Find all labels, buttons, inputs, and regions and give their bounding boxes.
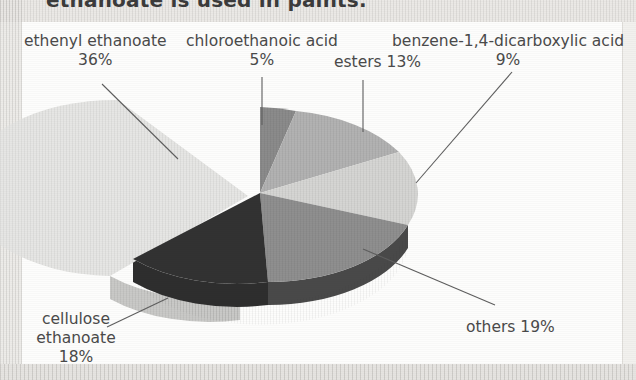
scan-texture-bottom <box>0 364 636 380</box>
label-chloroethanoic-acid: chloroethanoic acid 5% <box>186 32 338 70</box>
label-benzene-1-4-dicarboxylic-acid: benzene-1,4-dicarboxylic acid 9% <box>392 32 624 70</box>
screenshot-root: ethanoate is used in paints. <box>0 0 636 380</box>
label-others: others 19% <box>466 318 555 337</box>
label-chloroethanoic-acid-pct: 5% <box>186 51 338 70</box>
label-chloroethanoic-acid-name: chloroethanoic acid <box>186 32 338 50</box>
label-ethenyl-ethanoate-pct: 36% <box>24 51 167 70</box>
label-cellulose-line1: cellulose <box>42 310 110 328</box>
label-ethenyl-ethanoate: ethenyl ethanoate 36% <box>24 32 167 70</box>
label-benzene-name: benzene-1,4-dicarboxylic acid <box>392 32 624 50</box>
label-ethenyl-ethanoate-name: ethenyl ethanoate <box>24 32 167 50</box>
label-cellulose-line2: ethanoate <box>24 329 128 348</box>
label-cellulose-ethanoate: cellulose ethanoate 18% <box>24 310 128 367</box>
label-benzene-pct: 9% <box>392 51 624 70</box>
leader-line-benzene <box>416 72 512 183</box>
